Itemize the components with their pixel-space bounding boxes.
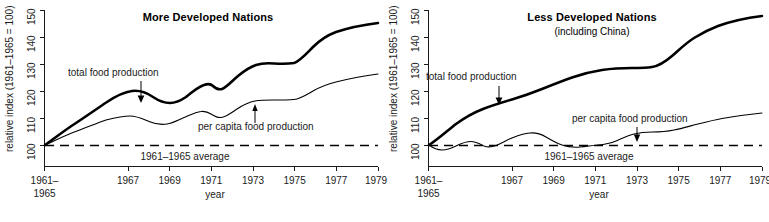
y-tick-label-120: 120 [410, 89, 421, 106]
x-tick-label-1967: 1967 [501, 175, 524, 186]
x-tick-label-1977: 1977 [709, 175, 732, 186]
x-tick-label-1973: 1973 [242, 175, 265, 186]
annotation-arrowhead-total [138, 96, 145, 104]
annotation-total-food-production: total food production [68, 67, 159, 78]
baseline-label: 1961–1965 average [141, 151, 230, 162]
y-tick-label-100: 100 [26, 143, 37, 160]
x-tick-label-1967: 1967 [117, 175, 140, 186]
annotation-arrowhead-percap [252, 104, 257, 111]
y-axis-title: relative index (1961–1965 = 100) [4, 6, 15, 153]
x-tick-label-1961-1965-line2: 1965 [33, 188, 56, 199]
y-tick-label-120: 120 [26, 89, 37, 106]
annotation-total-food-production: total food production [426, 71, 517, 82]
chart-subtitle: (including China) [554, 26, 629, 37]
y-tick-label-150: 150 [410, 8, 421, 25]
y-axis-title: relative index (1961–1965 = 100) [388, 6, 399, 153]
x-axis-title: year [205, 189, 225, 200]
chart-title: Less Developed Nations [527, 11, 656, 23]
chart-panel-less-developed: relative index (1961–1965 = 100) 100 110… [384, 0, 769, 222]
y-tick-label-150: 150 [26, 8, 37, 25]
y-tick-label-140: 140 [410, 35, 421, 52]
y-tick-label-110: 110 [26, 117, 37, 133]
x-tick-label-1969: 1969 [158, 175, 181, 186]
x-tick-label-1975: 1975 [667, 175, 690, 186]
annotation-arrowhead-percap [634, 135, 640, 143]
x-tick-label-1975: 1975 [283, 175, 306, 186]
x-tick-label-1961-1965-line1: 1961– [31, 175, 59, 186]
x-tick-label-1969: 1969 [542, 175, 565, 186]
annotation-per-capita-food-production: per capita food production [572, 113, 688, 124]
x-tick-label-1961-1965-line1: 1961– [415, 175, 443, 186]
figure-two-panel-food-production: relative index (1961–1965 = 100) 100 110… [0, 0, 769, 222]
y-tick-label-130: 130 [26, 62, 37, 79]
chart-panel-more-developed: relative index (1961–1965 = 100) 100 110… [0, 0, 385, 222]
chart-title: More Developed Nations [143, 11, 274, 23]
x-tick-label-1973: 1973 [626, 175, 649, 186]
x-tick-label-1971: 1971 [584, 175, 607, 186]
x-tick-label-1961-1965-line2: 1965 [417, 188, 440, 199]
x-tick-label-1979: 1979 [749, 175, 769, 186]
x-tick-label-1977: 1977 [325, 175, 348, 186]
y-tick-label-110: 110 [410, 117, 421, 133]
y-tick-label-130: 130 [410, 62, 421, 79]
x-tick-label-1971: 1971 [200, 175, 223, 186]
x-axis-title: year [589, 189, 609, 200]
y-tick-label-140: 140 [26, 35, 37, 52]
y-tick-label-100: 100 [410, 143, 421, 160]
baseline-label: 1961–1965 average [545, 151, 634, 162]
annotation-per-capita-food-production: per capita food production [198, 121, 314, 132]
